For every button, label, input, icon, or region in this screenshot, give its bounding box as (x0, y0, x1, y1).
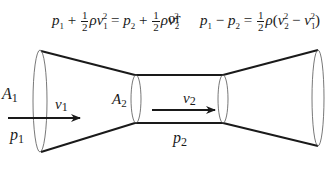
cross-section-a1 (33, 50, 47, 152)
label-a1: A1 (1, 85, 18, 105)
cross-section-exit (312, 50, 324, 146)
wall-left-top (41, 51, 135, 75)
cross-section-exit-throat (218, 75, 228, 123)
wall-left-bottom (41, 123, 135, 152)
label-a2: A2 (111, 91, 127, 109)
label-v1: v1 (55, 96, 68, 114)
wall-right-top (223, 50, 318, 75)
label-p2: p2 (172, 129, 187, 149)
cross-section-a2 (131, 75, 141, 123)
label-v2: v2 (183, 90, 196, 108)
venturi-tube-diagram: A1 v1 p1 A2 v2 p2 (0, 0, 335, 171)
label-p1: p1 (9, 126, 24, 146)
wall-right-bottom (223, 123, 318, 146)
